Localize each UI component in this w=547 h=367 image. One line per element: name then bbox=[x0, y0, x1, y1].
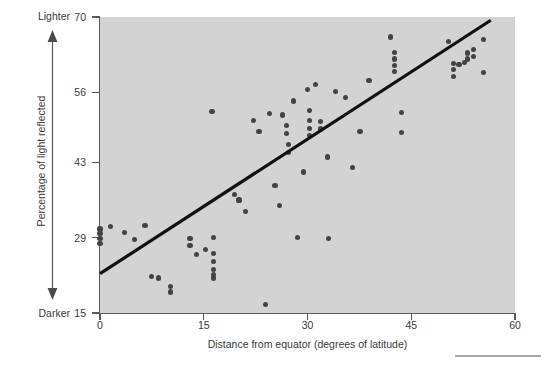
bottom-divider-rule bbox=[455, 355, 541, 357]
scatter-plot-figure: 1529435670 015304560 Lighter Darker Perc… bbox=[0, 0, 547, 367]
regression-line bbox=[0, 0, 547, 367]
